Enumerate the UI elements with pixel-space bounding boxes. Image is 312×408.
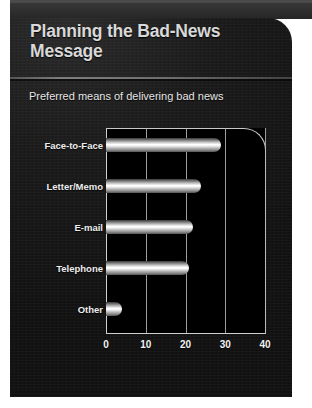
bar [106, 179, 201, 193]
slide: Planning the Bad-News Message Preferred … [0, 0, 312, 408]
axis-tick-label: 40 [259, 339, 270, 351]
gridline [265, 128, 266, 333]
bar [106, 302, 122, 316]
bar [106, 261, 189, 275]
axis-tick-label: 20 [180, 339, 191, 351]
category-label: Face-to-Face [10, 139, 103, 150]
axis-tick-label: 30 [220, 339, 231, 351]
axis-tick-label: 0 [103, 339, 109, 351]
bar [106, 138, 221, 152]
top-band-highlight [10, 0, 312, 3]
category-label: Telephone [10, 262, 103, 273]
bar [106, 220, 193, 234]
content-panel: Planning the Bad-News Message Preferred … [10, 18, 292, 397]
axis-tick-label: 10 [140, 339, 151, 351]
category-label: Letter/Memo [10, 180, 103, 191]
category-label: E-mail [10, 221, 103, 232]
category-axis-labels: Face-to-FaceLetter/MemoE-mailTelephoneOt… [10, 18, 103, 397]
category-label: Other [10, 303, 103, 314]
gridline [225, 128, 226, 333]
bar-chart: Face-to-FaceLetter/MemoE-mailTelephoneOt… [10, 18, 292, 397]
